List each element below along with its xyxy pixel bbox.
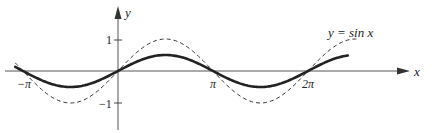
curve-label: y = sin x [326, 25, 373, 40]
sine-graph: y x 1 −1 −π π 2π y = sin x [0, 0, 432, 133]
y-tick-label-1: 1 [106, 33, 112, 47]
x-tick-label-pi: π [210, 77, 217, 91]
x-axis-label: x [413, 64, 420, 79]
x-tick-label-neg-pi: −π [17, 77, 32, 91]
x-tick-label-2pi: 2π [302, 77, 315, 91]
y-tick-label-neg1: −1 [99, 97, 112, 111]
x-axis-arrow-icon [397, 68, 410, 75]
y-axis-arrow-icon [115, 6, 122, 19]
y-axis-label: y [123, 5, 131, 20]
